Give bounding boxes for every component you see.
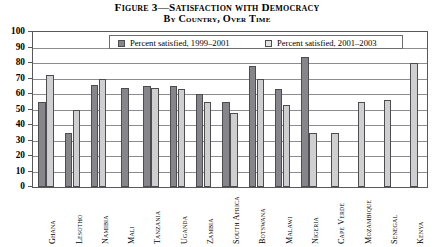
bar-series-2 <box>257 79 265 188</box>
x-axis-labels: GhanaLesothoNamibiaMaliTanzaniaUgandaZam… <box>33 189 427 247</box>
bar-series-2 <box>73 110 81 188</box>
bar-series-2 <box>410 63 418 187</box>
legend-entry-series-1: Percent satisfied, 1999–2001 <box>118 37 230 49</box>
bar-series-2 <box>384 100 392 187</box>
x-axis-category-text: Uganda <box>181 216 189 244</box>
x-axis-category-text: Mozambique <box>365 200 373 244</box>
y-axis-tick-label: 30 <box>0 136 25 145</box>
x-axis-category-text: Kenya <box>417 222 425 244</box>
chart-legend: Percent satisfied, 1999–2001 Percent sat… <box>109 35 403 49</box>
bars-layer <box>33 32 427 187</box>
bar-series-2 <box>358 102 366 187</box>
y-axis-tick-label: 90 <box>0 43 25 52</box>
legend-entry-series-2: Percent satisfied, 2001–2003 <box>265 37 377 49</box>
bar-series-2 <box>99 79 107 188</box>
bar-series-1 <box>121 88 129 187</box>
x-axis-category-text: South Africa <box>233 196 241 244</box>
bar-series-1 <box>301 57 309 187</box>
legend-swatch-icon-series-1 <box>118 40 125 47</box>
bar-series-1 <box>91 85 99 187</box>
bar-series-1 <box>143 86 151 187</box>
x-axis-category-text: Lesotho <box>76 215 84 244</box>
x-axis-category-text: Namibia <box>102 215 110 244</box>
bar-series-1 <box>170 86 178 187</box>
y-axis-tick-label: 100 <box>0 27 25 36</box>
x-axis-category-text: Ghana <box>49 220 57 244</box>
x-axis-category-text: Zambia <box>207 218 215 244</box>
bar-series-2 <box>230 113 238 187</box>
chart-title-line-1: Figure 3—Satisfaction with Democracy <box>0 2 434 13</box>
x-axis-category-text: Malawi <box>286 217 294 244</box>
y-axis-tick-label: 10 <box>0 167 25 176</box>
chart-title: Figure 3—Satisfaction with Democracy By … <box>0 2 434 24</box>
x-axis-category-text: Nigeria <box>312 217 320 244</box>
bar-series-2 <box>204 102 212 187</box>
y-axis-tick-label: 20 <box>0 151 25 160</box>
bar-series-1 <box>222 102 230 187</box>
x-axis-category-text: Botswana <box>259 208 267 244</box>
bar-series-2 <box>178 89 186 187</box>
figure-3-chart: Figure 3—Satisfaction with Democracy By … <box>0 0 434 247</box>
x-axis-category-text: Tanzania <box>154 211 162 244</box>
bar-series-1 <box>38 102 46 187</box>
legend-swatch-icon-series-2 <box>265 40 272 47</box>
y-axis-tick-label: 50 <box>0 105 25 114</box>
bar-series-2 <box>46 75 54 187</box>
bar-series-1 <box>65 133 73 187</box>
x-axis-category-text: Mali <box>128 226 136 244</box>
chart-title-line-2: By Country, Over Time <box>0 13 434 24</box>
bar-series-2 <box>331 133 339 187</box>
bar-series-2 <box>283 105 291 187</box>
x-axis-category-text: Cape Verde <box>338 203 346 244</box>
bar-series-2 <box>151 88 159 187</box>
y-axis-tick-label: 60 <box>0 89 25 98</box>
y-axis-tick-label: 80 <box>0 58 25 67</box>
x-axis-category-text: Senegal <box>391 215 399 244</box>
y-axis-tick-label: 0 <box>0 182 25 191</box>
legend-label-series-2: Percent satisfied, 2001–2003 <box>277 39 377 48</box>
bar-series-1 <box>275 89 283 187</box>
bar-series-2 <box>309 133 317 187</box>
legend-label-series-1: Percent satisfied, 1999–2001 <box>130 39 230 48</box>
bar-series-1 <box>196 94 204 187</box>
y-axis-tick-label: 40 <box>0 120 25 129</box>
y-axis-tick-label: 70 <box>0 74 25 83</box>
y-axis: 1009080706050403020100 <box>0 31 32 188</box>
bar-series-1 <box>249 66 257 187</box>
